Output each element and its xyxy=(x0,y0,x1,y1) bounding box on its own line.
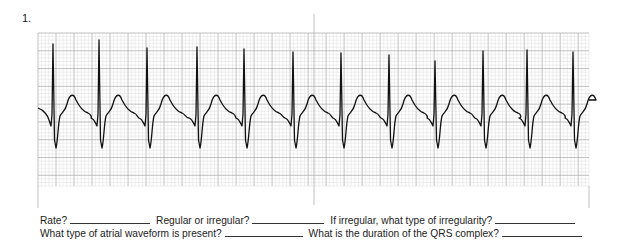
question-qrs-duration-label: What is the duration of the QRS complex? xyxy=(309,228,499,239)
question-line-2: What type of atrial waveform is present?… xyxy=(40,227,585,239)
question-regularity-label: Regular or irregular? xyxy=(156,215,249,226)
ecg-waveform xyxy=(38,40,596,148)
ecg-strip xyxy=(0,0,617,247)
ecg-grid-paper xyxy=(38,33,589,186)
question-line-1: Rate? Regular or irregular? If irregular… xyxy=(40,214,578,226)
question-rate-label: Rate? xyxy=(40,215,67,226)
answer-qrs-duration-blank[interactable] xyxy=(502,227,582,237)
answer-irregularity-type-blank[interactable] xyxy=(495,214,575,224)
answer-rate-blank[interactable] xyxy=(70,214,150,224)
answer-regularity-blank[interactable] xyxy=(252,214,324,224)
question-irregularity-type-label: If irregular, what type of irregularity? xyxy=(330,215,492,226)
question-atrial-waveform-label: What type of atrial waveform is present? xyxy=(40,228,222,239)
answer-atrial-waveform-blank[interactable] xyxy=(225,227,303,237)
